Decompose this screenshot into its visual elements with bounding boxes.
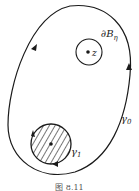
- contour-diagram: z ∂Bη γ1 γ0: [0, 0, 139, 191]
- figure-caption: 图 8.11: [0, 181, 139, 191]
- label-gamma0: γ0: [121, 113, 132, 126]
- arrow-icon: [31, 44, 37, 51]
- label-z: z: [91, 48, 97, 58]
- point-z: [86, 50, 90, 54]
- center-point: [49, 142, 53, 146]
- label-gamma1: γ1: [71, 146, 81, 159]
- label-dB: ∂Bη: [101, 28, 119, 42]
